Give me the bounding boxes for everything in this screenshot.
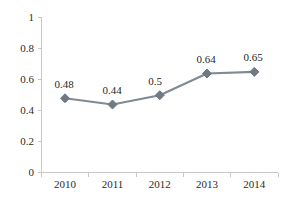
x-tick-label: 2011 [102,178,124,190]
y-tick-label: 0.4 [20,104,34,116]
data-point-marker [155,91,164,100]
y-tick-label: 0.2 [20,135,34,147]
data-label: 0.5 [148,75,162,87]
data-point-marker [250,67,259,76]
data-point-marker [203,69,212,78]
chart-canvas: 1 0.8 0.6 0.4 0.2 0 2010 2011 2012 2013 … [0,0,286,200]
x-tick-label: 2012 [149,178,171,190]
data-point-marker [61,94,70,103]
data-label: 0.44 [102,84,122,96]
data-label: 0.48 [54,78,74,90]
x-tick-label: 2013 [196,178,219,190]
x-tick-label: 2014 [243,178,266,190]
line-chart: 1 0.8 0.6 0.4 0.2 0 2010 2011 2012 2013 … [0,0,286,200]
y-tick-label: 0.8 [20,42,34,54]
data-point-marker [108,100,117,109]
y-tick-label: 0 [29,166,35,178]
data-label: 0.65 [243,51,263,63]
y-axis: 1 0.8 0.6 0.4 0.2 0 [20,11,41,178]
y-tick-label: 1 [29,11,35,23]
x-tick-label: 2010 [54,178,77,190]
x-axis: 2010 2011 2012 2013 2014 [42,173,279,191]
y-tick-label: 0.6 [20,73,34,85]
data-label: 0.64 [196,53,216,65]
series-group [61,67,259,109]
